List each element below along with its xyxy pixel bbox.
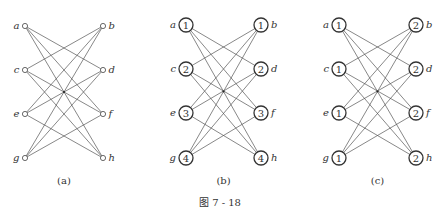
node-value: 2 bbox=[413, 64, 419, 75]
node-value: 1 bbox=[336, 64, 342, 75]
figure-7-18: acegbdfh(a)1a2c3e4g1b2d3f4h(b)1a1c1e1g2b… bbox=[0, 0, 447, 216]
node-label: d bbox=[271, 63, 277, 74]
node-label: c bbox=[14, 64, 20, 75]
panels: acegbdfh(a)1a2c3e4g1b2d3f4h(b)1a1c1e1g2b… bbox=[13, 18, 432, 186]
node-label: b bbox=[271, 19, 277, 30]
panel-label: (b) bbox=[216, 175, 230, 186]
node-f: 3f bbox=[254, 106, 277, 120]
node-label: h bbox=[109, 152, 115, 163]
node-h: 4h bbox=[254, 151, 277, 165]
node-b: 2b bbox=[409, 18, 432, 32]
node-label: c bbox=[170, 63, 176, 74]
node-label: a bbox=[323, 19, 329, 30]
node-e: 1e bbox=[323, 106, 346, 120]
node-value: 2 bbox=[183, 64, 189, 75]
node-f: f bbox=[100, 108, 114, 119]
node-c: c bbox=[14, 64, 28, 75]
node-label: f bbox=[425, 107, 432, 118]
node-circle bbox=[100, 155, 105, 160]
node-b: b bbox=[100, 20, 115, 31]
node-label: g bbox=[323, 152, 329, 163]
node-label: e bbox=[170, 107, 176, 118]
center-crossing-dot bbox=[63, 91, 65, 93]
node-g: g bbox=[13, 152, 28, 163]
node-label: e bbox=[323, 107, 329, 118]
node-label: g bbox=[13, 152, 19, 163]
node-c: 1c bbox=[323, 62, 346, 76]
node-label: a bbox=[170, 19, 176, 30]
center-crossing-dot bbox=[377, 91, 379, 93]
node-d: d bbox=[100, 64, 115, 75]
node-value: 1 bbox=[336, 108, 342, 119]
node-value: 2 bbox=[413, 20, 419, 31]
node-circle bbox=[100, 67, 105, 72]
panel-a: acegbdfh(a) bbox=[13, 20, 115, 186]
node-circle bbox=[100, 111, 105, 116]
node-value: 2 bbox=[413, 153, 419, 164]
node-circle bbox=[22, 23, 27, 28]
node-label: h bbox=[426, 152, 432, 163]
node-label: f bbox=[270, 107, 277, 118]
node-g: 1g bbox=[323, 151, 346, 165]
node-b: 1b bbox=[254, 18, 277, 32]
node-label: d bbox=[426, 63, 432, 74]
node-label: h bbox=[271, 152, 277, 163]
node-f: 2f bbox=[409, 106, 432, 120]
node-circle bbox=[22, 155, 27, 160]
node-value: 1 bbox=[336, 20, 342, 31]
node-label: b bbox=[109, 20, 115, 31]
node-circle bbox=[100, 23, 105, 28]
node-h: h bbox=[100, 152, 115, 163]
node-value: 1 bbox=[183, 20, 189, 31]
node-label: g bbox=[170, 152, 176, 163]
node-a: 1a bbox=[323, 18, 346, 32]
panel-label: (c) bbox=[371, 175, 385, 186]
panel-label: (a) bbox=[57, 175, 71, 186]
node-a: 1a bbox=[170, 18, 193, 32]
node-label: b bbox=[426, 19, 432, 30]
node-c: 2c bbox=[170, 62, 193, 76]
node-label: a bbox=[13, 20, 19, 31]
node-label: d bbox=[109, 64, 115, 75]
node-value: 3 bbox=[183, 108, 189, 119]
node-value: 4 bbox=[183, 153, 189, 164]
node-e: 3e bbox=[170, 106, 193, 120]
node-value: 4 bbox=[258, 153, 264, 164]
node-label: c bbox=[323, 63, 329, 74]
node-value: 2 bbox=[413, 108, 419, 119]
node-value: 3 bbox=[258, 108, 264, 119]
figure-caption: 图 7 - 18 bbox=[199, 197, 241, 208]
center-crossing-dot bbox=[223, 91, 225, 93]
node-g: 4g bbox=[170, 151, 193, 165]
node-h: 2h bbox=[409, 151, 432, 165]
node-value: 1 bbox=[336, 153, 342, 164]
node-e: e bbox=[13, 108, 27, 119]
node-label: e bbox=[13, 108, 19, 119]
node-value: 1 bbox=[258, 20, 264, 31]
node-label: f bbox=[108, 108, 115, 119]
panel-c: 1a1c1e1g2b2d2f2h(c) bbox=[323, 18, 433, 186]
node-a: a bbox=[13, 20, 27, 31]
node-d: 2d bbox=[409, 62, 432, 76]
panel-b: 1a2c3e4g1b2d3f4h(b) bbox=[170, 18, 278, 186]
node-value: 2 bbox=[258, 64, 264, 75]
node-d: 2d bbox=[254, 62, 277, 76]
node-circle bbox=[22, 111, 27, 116]
node-circle bbox=[22, 67, 27, 72]
